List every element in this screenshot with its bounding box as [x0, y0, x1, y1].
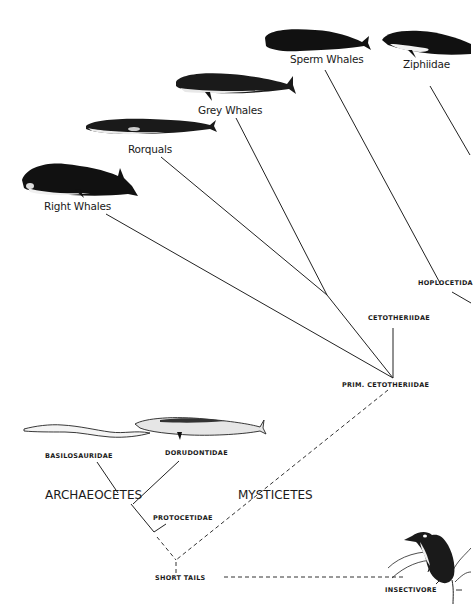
sperm-whale-illustration	[265, 29, 371, 51]
sperm-whale-icon	[265, 29, 371, 51]
label-hoplocetida: HOPLOCETIDA	[418, 279, 473, 287]
right-whale-illustration	[22, 164, 138, 198]
grey-whale-illustration	[176, 73, 296, 101]
tree-branches	[97, 70, 471, 532]
label-insectivore: INSECTIVORE	[385, 586, 437, 594]
branch-grey-rorqual-stem	[327, 295, 393, 378]
label-rorquals: Rorquals	[128, 143, 172, 155]
branch-grey-whales	[236, 118, 327, 295]
branch-ziphiidae	[430, 86, 470, 155]
label-ziphiidae: Ziphiidae	[403, 58, 450, 70]
label-prim-cetotheriidae: PRIM. CETOTHERIIDAE	[342, 381, 429, 389]
ziphiidae-illustration	[382, 31, 471, 58]
label-protocetidae: PROTOCETIDAE	[153, 514, 213, 522]
label-dorudontidae: DORUDONTIDAE	[165, 449, 228, 457]
label-cetotheriidae: CETOTHERIIDAE	[368, 314, 430, 322]
branch-sperm-whales	[325, 70, 440, 283]
branch-mysticetes-dashed	[176, 390, 388, 560]
label-right-whales: Right Whales	[44, 200, 111, 212]
label-archaeocetes: ARCHAEOCETES	[45, 488, 142, 502]
dorudontid-illustration	[135, 418, 266, 440]
label-mysticetes: MYSTICETES	[238, 488, 313, 502]
basilosaurid-illustration	[24, 425, 150, 438]
branch-rorquals	[161, 157, 327, 295]
basilosaurid-icon	[24, 425, 150, 438]
insectivore-icon	[404, 532, 455, 583]
branch-archaeocete-stem	[131, 504, 154, 532]
label-sperm-whales: Sperm Whales	[290, 53, 363, 65]
branch-protocetidae	[154, 524, 166, 532]
branch-hoplocetida	[452, 292, 471, 303]
branch-protocetidae-dashed	[157, 537, 176, 560]
label-grey-whales: Grey Whales	[198, 104, 262, 116]
rorqual-illustration	[86, 119, 217, 134]
label-short-tails: SHORT TAILS	[155, 574, 206, 582]
branch-right-whales	[106, 214, 393, 378]
label-basilosauridae: BASILOSAURIDAE	[45, 452, 113, 460]
